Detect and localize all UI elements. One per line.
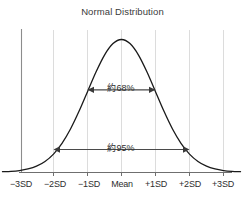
plot-area [0,0,245,200]
gridlines [54,30,224,172]
x-tick-label-plus1sd: +1SD [145,179,167,189]
annotation-95-arrowhead-right [183,146,190,152]
annotation-95-arrowhead-left [54,146,61,152]
x-tick-label-plus3sd: +3SD [212,179,234,189]
annotation-68-arrowhead-left [88,87,95,93]
normal-distribution-chart: Normal Distribution [0,0,245,200]
annotation-label-68: 約68% [107,81,134,94]
x-tick-label-minus2sd: −2SD [44,179,66,189]
x-tick-label-minus1sd: −1SD [78,179,100,189]
x-tick-label-minus3sd: −3SD [10,179,32,189]
annotation-68-arrowhead-right [149,87,156,93]
x-tick-label-plus2sd: +2SD [179,179,201,189]
x-tick-label-mean: Mean [111,179,133,189]
annotation-label-95: 約95% [107,141,134,154]
